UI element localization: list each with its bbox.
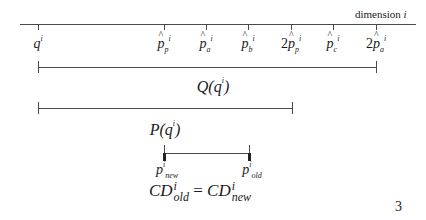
tick-p-hat-c [333,24,334,30]
interval-price [164,153,249,154]
axis-label: dimension i [355,8,407,20]
interval-P [38,108,292,109]
tick-p-hat-a [206,24,207,30]
interval-Q-label: Q(qi) [197,79,229,95]
tick-p-hat-p [164,24,165,30]
interval-P-label: P(qi) [150,122,181,138]
axis-label-text: dimension [355,8,401,20]
tick-p-hat-b [248,24,249,30]
page-number: 3 [395,199,402,215]
price-old-label: piold [242,163,261,180]
axis-label-var: i [404,8,407,20]
tick-label-p-hat-p: ppi [157,37,170,54]
tick-label-p-hat-c: pci [327,37,340,54]
tick-q [38,24,39,30]
interval-P-right-end [292,102,293,114]
interval-Q-left-end [38,61,39,73]
tick-label-2p-hat-a: 2pai [366,37,386,54]
tick-label-p-hat-b: pbi [241,37,254,54]
price-new-label: pinew [156,163,178,180]
price-right-tick [249,145,250,153]
price-left-tick [164,145,165,153]
dimension-axis [20,24,416,25]
interval-Q [38,67,377,68]
tick-label-p-hat-a: pai [199,37,212,54]
tick-label-q: qi [33,37,42,51]
cd-equation: CDiold = CDinew [149,181,251,204]
interval-P-left-end [38,102,39,114]
tick-label-2p-hat-p: 2ppi [281,37,301,54]
interval-Q-right-end [376,61,377,73]
